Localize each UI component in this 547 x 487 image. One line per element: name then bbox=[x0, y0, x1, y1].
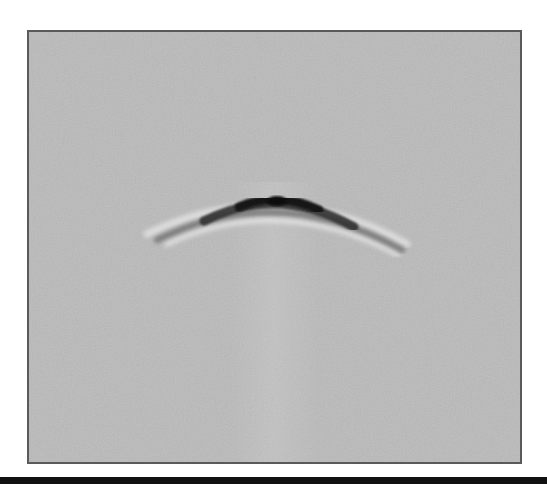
hyperbola-apex bbox=[267, 196, 287, 206]
bottom-divider-bar bbox=[0, 477, 547, 484]
radargram-canvas bbox=[29, 32, 520, 462]
radargram-panel bbox=[27, 30, 522, 464]
